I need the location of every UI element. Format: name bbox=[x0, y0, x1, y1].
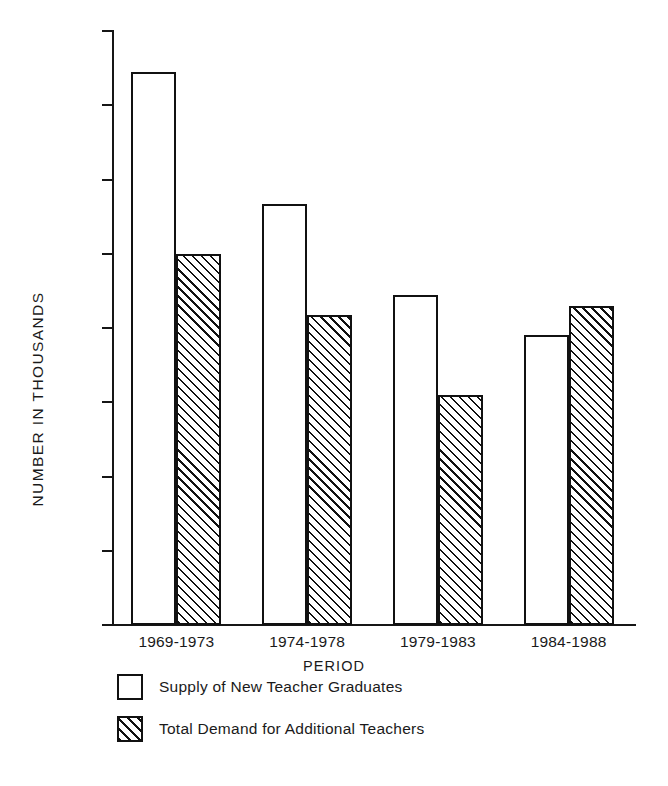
x-axis-tick-label: 1979-1983 bbox=[373, 633, 504, 651]
legend-swatch-open-icon bbox=[117, 674, 143, 700]
legend-label-supply: Supply of New Teacher Graduates bbox=[159, 678, 403, 696]
legend-item-supply: Supply of New Teacher Graduates bbox=[117, 674, 403, 700]
bar-demand-1984-1988 bbox=[569, 306, 614, 625]
y-axis-tick bbox=[102, 30, 113, 32]
bar-supply-1974-1978 bbox=[262, 204, 307, 625]
legend-label-demand: Total Demand for Additional Teachers bbox=[159, 720, 424, 738]
bar-supply-1969-1973 bbox=[131, 72, 176, 625]
legend-swatch-hatched-icon bbox=[117, 716, 143, 742]
bar-supply-1979-1983 bbox=[393, 295, 438, 625]
x-axis-tick-label: 1984-1988 bbox=[503, 633, 634, 651]
bar-supply-1984-1988 bbox=[524, 335, 569, 625]
y-axis-tick bbox=[102, 401, 113, 403]
x-axis-tick-label: 1974-1978 bbox=[242, 633, 373, 651]
x-axis-tick-label: 1969-1973 bbox=[111, 633, 242, 651]
y-axis-tick bbox=[102, 179, 113, 181]
bar-chart-figure: NUMBER IN THOUSANDS 02004006008001,0001,… bbox=[0, 0, 668, 786]
y-axis-tick bbox=[102, 104, 113, 106]
y-axis-tick bbox=[102, 476, 113, 478]
y-axis-tick bbox=[102, 550, 113, 552]
bar-demand-1974-1978 bbox=[307, 315, 352, 625]
y-axis-tick bbox=[102, 253, 113, 255]
bar-demand-1979-1983 bbox=[438, 395, 483, 625]
x-axis-title: PERIOD bbox=[0, 658, 668, 674]
legend-item-demand: Total Demand for Additional Teachers bbox=[117, 716, 424, 742]
y-axis-tick bbox=[102, 624, 113, 626]
bar-demand-1969-1973 bbox=[176, 254, 221, 625]
y-axis-title: NUMBER IN THOUSANDS bbox=[29, 189, 47, 609]
y-axis-tick bbox=[102, 327, 113, 329]
